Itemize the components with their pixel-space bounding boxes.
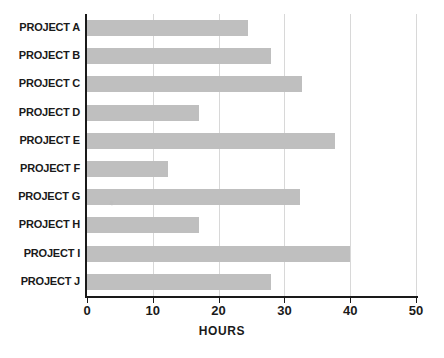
x-tick-label-30: 30: [277, 303, 291, 318]
bar-row: [87, 268, 416, 296]
y-axis-category-labels: PROJECT APROJECT BPROJECT CPROJECT DPROJ…: [0, 14, 80, 296]
x-axis-line: [85, 296, 418, 298]
category-label-project-i: PROJECT I: [2, 247, 80, 259]
category-label-project-b: PROJECT B: [2, 49, 80, 61]
category-label-project-e: PROJECT E: [2, 134, 80, 146]
x-tick-label-50: 50: [409, 303, 423, 318]
bar-row: [87, 155, 416, 183]
bar-row: [87, 99, 416, 127]
bar-row: [87, 14, 416, 42]
bar-project-b: [87, 48, 271, 64]
bar-project-e: [87, 133, 335, 149]
x-tick-label-0: 0: [83, 303, 90, 318]
category-label-project-h: PROJECT H: [2, 218, 80, 230]
bar-project-c: [87, 76, 302, 92]
category-label-project-a: PROJECT A: [2, 21, 80, 33]
bar-project-j: [87, 274, 271, 290]
category-label-project-g: PROJECT G: [2, 190, 80, 202]
gridline-50: [416, 14, 417, 296]
bar-row: [87, 211, 416, 239]
bar-row: [87, 183, 416, 211]
bar-row: [87, 240, 416, 268]
x-tick-label-20: 20: [211, 303, 225, 318]
x-axis-title: HOURS: [0, 324, 444, 338]
category-label-project-d: PROJECT D: [2, 106, 80, 118]
bar-chart-figure: PROJECT APROJECT BPROJECT CPROJECT DPROJ…: [0, 0, 444, 358]
category-label-project-j: PROJECT J: [2, 275, 80, 287]
bar-project-a: [87, 20, 248, 36]
bar-row: [87, 70, 416, 98]
bar-project-h: [87, 217, 199, 233]
bar-row: [87, 42, 416, 70]
x-tick-label-10: 10: [146, 303, 160, 318]
bar-project-g: [87, 189, 300, 205]
plot-area: [87, 14, 416, 296]
category-label-project-f: PROJECT F: [2, 162, 80, 174]
x-tick-label-40: 40: [343, 303, 357, 318]
bar-project-d: [87, 105, 199, 121]
bar-row: [87, 127, 416, 155]
bar-project-f: [87, 161, 168, 177]
bar-project-i: [87, 246, 350, 262]
y-axis-line: [85, 14, 87, 297]
category-label-project-c: PROJECT C: [2, 77, 80, 89]
